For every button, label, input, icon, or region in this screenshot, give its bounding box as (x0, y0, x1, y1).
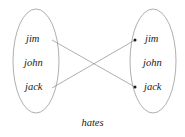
endpoint-dot-jack (134, 86, 137, 89)
right-node-jim: jim (145, 34, 158, 45)
left-node-jim: jim (26, 34, 39, 45)
left-node-jack: jack (25, 82, 43, 93)
diagram-canvas: jim john jack jim john jack hates (0, 0, 185, 137)
endpoint-dot-jim (134, 39, 137, 42)
right-node-john: john (143, 58, 162, 69)
right-node-jack: jack (144, 82, 162, 93)
left-node-john: john (24, 58, 43, 69)
relation-caption: hates (0, 118, 185, 129)
